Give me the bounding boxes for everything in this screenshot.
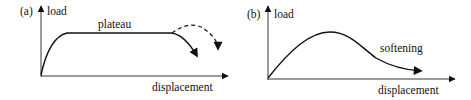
panel-b <box>268 6 455 80</box>
panel-a-plateau-curve <box>41 33 197 75</box>
panel-b-tag: (b) <box>247 9 260 21</box>
panel-a <box>41 6 228 77</box>
panel-a-y-label: load <box>47 6 67 18</box>
panel-b-x-label: displacement <box>378 85 439 97</box>
panel-a-tag: (a) <box>20 6 33 18</box>
panel-b-softening-annotation: softening <box>380 43 423 55</box>
panel-b-y-label: load <box>274 9 294 21</box>
panel-b-softening-curve <box>268 32 421 78</box>
panel-a-plateau-annotation: plateau <box>98 19 131 31</box>
panel-a-x-label: displacement <box>152 82 213 94</box>
panel-a-dashed-alternative <box>172 25 218 49</box>
